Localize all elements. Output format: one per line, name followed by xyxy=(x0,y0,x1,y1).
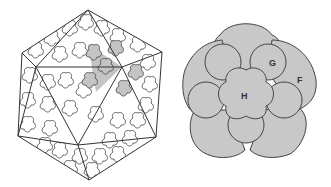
label-g: G xyxy=(269,58,276,68)
figure: G F H xyxy=(0,0,331,187)
icosahedron-diagram: G F H xyxy=(0,0,331,187)
capsid-subunits xyxy=(20,14,157,178)
label-f: F xyxy=(297,75,303,85)
label-h: H xyxy=(241,91,248,101)
capsomer-rosette: G F H xyxy=(183,24,316,158)
